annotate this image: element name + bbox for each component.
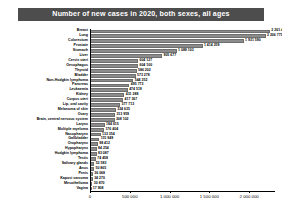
bar-value-label: 1 089 103	[178, 49, 194, 53]
bar	[90, 142, 98, 146]
bar-value-label: 17 908	[93, 187, 104, 191]
bar	[90, 123, 105, 127]
category-label: Vagina	[76, 187, 88, 191]
x-axis-line	[90, 191, 275, 192]
bar-value-label: 2 206 771	[267, 35, 282, 39]
page-title: Number of new cases in 2020, both sexes,…	[52, 11, 229, 18]
bar	[90, 113, 115, 117]
bar	[90, 79, 133, 83]
bar-value-label: 1 414 259	[204, 44, 220, 48]
bar	[90, 93, 124, 97]
bar	[90, 69, 137, 73]
y-axis-line	[90, 29, 91, 192]
bar	[90, 108, 116, 112]
bar	[90, 103, 120, 107]
cancer-incidence-bar-chart: Number of new cases in 2020, both sexes,…	[0, 0, 282, 212]
x-axis-tick-label: 500 000	[122, 195, 138, 199]
bar	[90, 64, 138, 68]
bar	[90, 74, 136, 78]
x-axis-tick-label: 2 000 000	[240, 195, 259, 199]
bar	[90, 98, 123, 102]
bar	[90, 84, 129, 88]
bar	[90, 88, 128, 92]
bar-value-label: 905 677	[163, 54, 176, 58]
bar	[90, 59, 138, 63]
plot-area: Breast2 261 419Lung2 206 771Colorectum1 …	[0, 29, 282, 191]
bar	[90, 34, 266, 38]
bar-value-label: 1 931 590	[245, 40, 261, 44]
x-axis-tick-label: 0	[89, 195, 91, 199]
x-axis-tick-label: 1 500 000	[200, 195, 219, 199]
x-axis: 0500 0001 000 0001 500 0002 000 000	[0, 191, 282, 212]
bar	[90, 138, 99, 142]
bar	[90, 30, 270, 34]
chart-title-banner: Number of new cases in 2020, both sexes,…	[18, 8, 264, 21]
x-axis-tick-label: 1 000 000	[160, 195, 179, 199]
bar	[90, 147, 97, 151]
bar	[90, 133, 101, 137]
bar	[90, 39, 244, 43]
